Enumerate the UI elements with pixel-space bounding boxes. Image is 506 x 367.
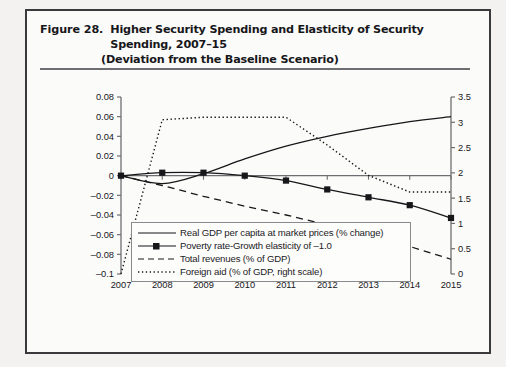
chart-area: 0.080.060.040.020–0.02–0.04–0.06–0.08–0.… [27,73,493,354]
left-axis-tick-label: 0.02 [96,151,114,161]
legend-label-total-revenues: Total revenues (% of GDP) [180,253,290,264]
left-axis-tick-label: –0.06 [91,230,114,240]
left-axis-tick-label: –0.08 [91,250,114,260]
dotted-line-key [136,266,180,278]
series-marker [159,170,165,176]
series-marker [242,173,248,179]
series-line-0 [121,117,451,184]
right-axis-tick-label: 3 [458,118,463,128]
series-marker [200,170,206,176]
legend-label-real-gdp: Real GDP per capita at market prices (% … [180,227,383,238]
x-axis-tick-label: 2007 [111,280,132,288]
solid-line-key [136,227,180,239]
solid-line-square-marker-key [136,240,180,252]
left-axis-tick-label: 0.08 [96,92,114,102]
legend-label-foreign-aid: Foreign aid (% of GDP, right scale) [180,266,322,277]
legend-item-total-revenues: Total revenues (% of GDP) [136,252,405,265]
left-axis-tick-label: 0.04 [96,132,114,142]
figure-number: Figure 28. [40,23,103,36]
right-axis-tick-label: 1 [458,219,463,229]
figure-frame: Figure 28. Higher Security Spending and … [25,9,491,354]
right-axis-tick-label: 1.5 [458,194,471,204]
series-marker [283,177,289,183]
right-axis-tick-label: 2.5 [458,143,471,153]
left-axis-tick-label: –0.1 [96,269,114,279]
left-axis-tick-label: –0.02 [91,191,114,201]
series-marker [407,202,413,208]
right-axis-tick-label: 0.5 [458,244,471,254]
figure-title-block: Figure 28. Higher Security Spending and … [40,23,476,68]
right-axis-tick-label: 2 [458,168,463,178]
figure-title-line2: (Deviation from the Baseline Scenario) [101,53,476,68]
x-axis-tick-label: 2015 [441,280,462,288]
figure-title-line1: Higher Security Spending and Elasticity … [110,23,476,52]
title-divider-rule [40,68,470,70]
chart-legend: Real GDP per capita at market prices (% … [131,222,411,282]
left-axis-tick-label: 0.06 [96,112,114,122]
legend-item-real-gdp: Real GDP per capita at market prices (% … [136,226,405,239]
legend-label-poverty-rate: Poverty rate-Growth elasticity of –1.0 [180,240,332,251]
series-marker [365,194,371,200]
title-first-line: Figure 28. Higher Security Spending and … [40,23,476,52]
series-marker [448,215,454,221]
right-axis-tick-label: 0 [458,269,463,279]
legend-item-poverty-rate: Poverty rate-Growth elasticity of –1.0 [136,239,405,252]
figure-page: Figure 28. Higher Security Spending and … [0,0,506,367]
left-axis-tick-label: –0.04 [91,210,114,220]
left-axis-tick-label: 0 [109,171,114,181]
series-marker [324,186,330,192]
right-axis-tick-label: 3.5 [458,92,471,102]
dashed-line-key [136,253,180,265]
legend-item-foreign-aid: Foreign aid (% of GDP, right scale) [136,265,405,278]
